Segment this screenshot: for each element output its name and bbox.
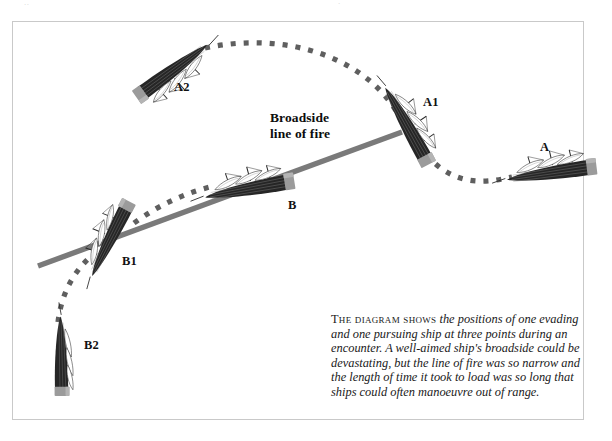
ship-label-b1: B1 xyxy=(122,254,137,269)
figure-page: .. . xyxy=(0,0,612,441)
ship-label-b2: B2 xyxy=(84,338,99,353)
ship-a1 xyxy=(373,64,446,168)
ship-label-a2: A2 xyxy=(174,80,190,95)
ship-a2 xyxy=(132,32,233,114)
broadside-label-line-1: Broadside xyxy=(270,110,330,126)
broadside-label-line-2: line of fire xyxy=(270,126,330,142)
evading-ship-track-lower xyxy=(418,145,512,181)
caption-lead: The diagram shows xyxy=(331,312,436,326)
ship-b2 xyxy=(55,302,74,396)
ship-label-b: B xyxy=(288,198,297,213)
evading-ship-track-upper xyxy=(205,43,400,118)
ship-b xyxy=(187,160,296,205)
ship-label-a: A xyxy=(540,140,549,155)
ship-label-a1: A1 xyxy=(423,95,439,110)
figure-caption: The diagram shows the positions of one e… xyxy=(331,312,581,400)
ship-b1 xyxy=(66,192,135,291)
pursuing-ship-track-lower xyxy=(58,252,96,322)
broadside-line-label: Broadside line of fire xyxy=(270,110,330,141)
